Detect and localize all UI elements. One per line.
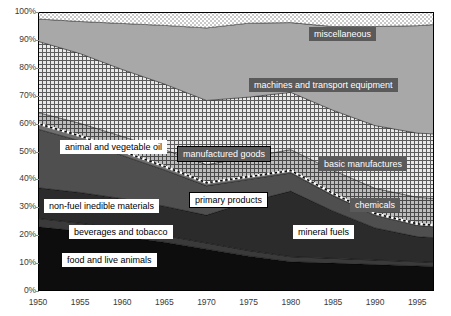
y-axis-tick-mark	[36, 235, 39, 236]
y-axis-tick-label: 80%	[2, 62, 36, 72]
x-axis-tick-label: 1975	[229, 297, 269, 307]
x-axis-tick-label: 1970	[187, 297, 227, 307]
y-axis-tick-label: 40%	[2, 173, 36, 183]
series-label: chemicals	[350, 198, 400, 212]
y-axis-tick-mark	[36, 179, 39, 180]
y-axis-tick-label: 10%	[2, 257, 36, 267]
x-axis-tick-label: 1955	[60, 297, 100, 307]
series-label: food and live animals	[62, 253, 157, 267]
series-label: machines and transport equipment	[249, 78, 398, 92]
stacked-area-chart: 0%10%20%30%40%50%60%70%80%90%100% 195019…	[0, 0, 451, 316]
x-axis-tick-label: 1950	[18, 297, 58, 307]
y-axis-tick-mark	[36, 12, 39, 13]
x-axis-tick-label: 1985	[313, 297, 353, 307]
y-axis-tick-label: 20%	[2, 229, 36, 239]
y-axis-tick-label: 50%	[2, 146, 36, 156]
series-label: primary products	[189, 192, 268, 208]
y-axis-tick-label: 90%	[2, 34, 36, 44]
y-axis-tick-label: 100%	[2, 6, 36, 16]
x-axis-tick-label: 1965	[144, 297, 184, 307]
series-label: mineral fuels	[293, 225, 354, 239]
y-axis-tick-mark	[36, 124, 39, 125]
x-axis-tick-label: 1995	[397, 297, 437, 307]
x-axis-tick-label: 1990	[355, 297, 395, 307]
y-axis-tick-label: 60%	[2, 118, 36, 128]
series-label: non-fuel inedible materials	[44, 199, 159, 213]
y-axis-tick-mark	[36, 207, 39, 208]
x-axis-tick-label: 1980	[271, 297, 311, 307]
y-axis-tick-mark	[36, 40, 39, 41]
series-label: basic manufactures	[319, 157, 407, 171]
y-axis-tick-mark	[36, 291, 39, 292]
y-axis: 0%10%20%30%40%50%60%70%80%90%100%	[0, 0, 36, 316]
y-axis-tick-mark	[36, 96, 39, 97]
y-axis-tick-mark	[36, 263, 39, 264]
y-axis-tick-mark	[36, 68, 39, 69]
series-label: animal and vegetable oil	[60, 140, 167, 154]
series-label: miscellaneous	[309, 27, 376, 41]
y-axis-tick-label: 0%	[2, 285, 36, 295]
y-axis-tick-mark	[36, 152, 39, 153]
series-label: beverages and tobacco	[69, 225, 173, 239]
series-label: manufactured goods	[177, 146, 271, 162]
y-axis-tick-label: 70%	[2, 90, 36, 100]
y-axis-tick-label: 30%	[2, 201, 36, 211]
x-axis-tick-label: 1960	[102, 297, 142, 307]
